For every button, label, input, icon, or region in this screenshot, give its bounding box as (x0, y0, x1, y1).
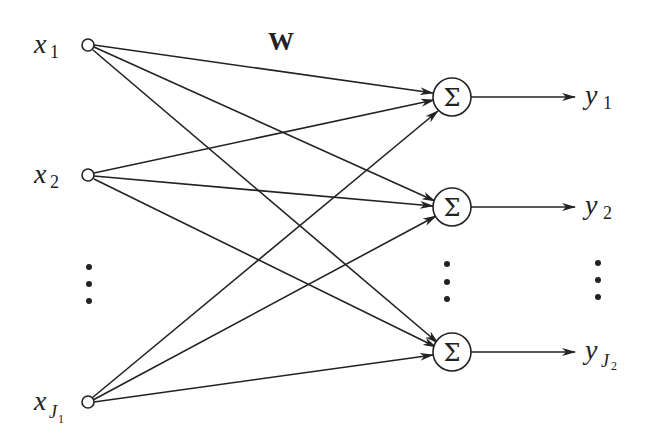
svg-text:2: 2 (611, 359, 617, 373)
svg-text:x: x (33, 28, 47, 59)
diagram-canvas: Σ Σ Σ W x 1 x 2 x J 1 y 1 y 2 y J 2 (0, 0, 651, 445)
output-label-1: y 1 (582, 79, 612, 113)
sigma-icon: Σ (444, 84, 461, 112)
output-ellipsis-icon (595, 260, 601, 300)
svg-text:y: y (582, 189, 598, 220)
output-label-j2: y J 2 (582, 334, 617, 373)
svg-text:y: y (582, 79, 598, 110)
weight-matrix-label: W (268, 27, 294, 56)
input-label-1: x 1 (33, 28, 59, 62)
input-node-j1 (82, 396, 94, 408)
weight-connections (92, 45, 575, 402)
input-node-1 (82, 39, 94, 51)
output-label-2: y 2 (582, 189, 612, 223)
input-ellipsis-icon (86, 264, 92, 304)
input-label-j1: x J 1 (33, 385, 64, 426)
sigma-icon: Σ (444, 339, 461, 367)
svg-text:J: J (601, 351, 610, 371)
svg-text:1: 1 (50, 42, 59, 62)
svg-text:x: x (33, 385, 47, 416)
svg-text:J: J (49, 402, 58, 422)
sigma-icon: Σ (444, 194, 461, 222)
neural-network-diagram: Σ Σ Σ W x 1 x 2 x J 1 y 1 y 2 y J 2 (0, 0, 651, 445)
svg-text:y: y (582, 334, 598, 365)
svg-text:x: x (33, 158, 47, 189)
svg-text:2: 2 (50, 172, 59, 192)
svg-text:1: 1 (58, 412, 64, 426)
svg-text:1: 1 (603, 93, 612, 113)
sum-ellipsis-icon (444, 261, 450, 302)
input-label-2: x 2 (33, 158, 59, 192)
svg-text:2: 2 (603, 203, 612, 223)
input-node-2 (82, 169, 94, 181)
